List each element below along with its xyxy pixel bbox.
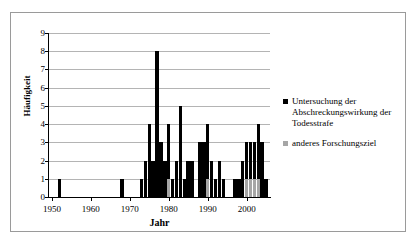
y-axis-tick-mark bbox=[45, 197, 48, 198]
bar-segment-untersuchung[interactable] bbox=[58, 179, 61, 197]
x-axis-tick-label: 1950 bbox=[35, 204, 69, 214]
x-axis-tick-label: 1960 bbox=[74, 204, 108, 214]
x-axis-line bbox=[48, 197, 271, 198]
y-axis-line bbox=[48, 33, 49, 198]
x-axis-tick-mark bbox=[169, 198, 170, 201]
x-axis-tick-label: 1980 bbox=[152, 204, 186, 214]
legend-item-label: Untersuchung der Abschreckungswirkung de… bbox=[292, 96, 405, 129]
x-axis-tick-mark bbox=[91, 198, 92, 201]
y-axis-tick-mark bbox=[45, 51, 48, 52]
chart-figure: 0123456789 Häufigkeit Jahr Untersuchung … bbox=[10, 12, 406, 232]
gridline bbox=[48, 88, 270, 89]
gridline bbox=[48, 69, 270, 70]
x-axis-tick-label: 2000 bbox=[230, 204, 264, 214]
bar-stack[interactable] bbox=[264, 179, 267, 197]
x-axis-tick-mark bbox=[208, 198, 209, 201]
y-axis-tick-mark bbox=[45, 33, 48, 34]
y-axis-tick-mark bbox=[45, 106, 48, 107]
y-axis-tick-mark bbox=[45, 161, 48, 162]
plot-area bbox=[48, 33, 270, 197]
y-axis-tick-mark bbox=[45, 142, 48, 143]
legend-item-label: anderes Forschungsziel bbox=[292, 138, 376, 149]
y-axis-tick-mark bbox=[45, 124, 48, 125]
x-axis-tick-label: 1970 bbox=[113, 204, 147, 214]
bar-stack[interactable] bbox=[222, 179, 225, 197]
x-axis-tick-mark bbox=[130, 198, 131, 201]
series-main-swatch-icon bbox=[283, 99, 288, 104]
gridline bbox=[48, 33, 270, 34]
y-axis-tick-label: 3 bbox=[25, 138, 45, 147]
y-axis-tick-label: 2 bbox=[25, 157, 45, 166]
x-axis-tick-label: 1990 bbox=[191, 204, 225, 214]
x-axis-tick-mark bbox=[52, 198, 53, 201]
y-axis-tick-mark bbox=[45, 88, 48, 89]
bar-stack[interactable] bbox=[58, 179, 61, 197]
bar-segment-untersuchung[interactable] bbox=[222, 179, 225, 197]
x-axis-tick-mark bbox=[247, 198, 248, 201]
bar-segment-untersuchung[interactable] bbox=[264, 179, 267, 197]
bar-stack[interactable] bbox=[190, 161, 193, 197]
legend-item-anderes[interactable]: anderes Forschungsziel bbox=[283, 138, 405, 149]
gridline bbox=[48, 106, 270, 107]
y-axis-tick-mark bbox=[45, 69, 48, 70]
bar-segment-untersuchung[interactable] bbox=[190, 161, 193, 197]
y-axis-title: Häufigkeit bbox=[22, 64, 32, 128]
bar-segment-untersuchung[interactable] bbox=[167, 124, 170, 179]
gridline bbox=[48, 124, 270, 125]
y-axis-tick-label: 8 bbox=[25, 47, 45, 56]
chart-legend: Untersuchung der Abschreckungswirkung de… bbox=[283, 96, 405, 158]
gridline bbox=[48, 51, 270, 52]
y-axis-tick-label: 9 bbox=[25, 29, 45, 38]
bar-stack[interactable] bbox=[120, 179, 123, 197]
y-axis-tick-mark bbox=[45, 179, 48, 180]
y-axis-tick-label: 0 bbox=[25, 193, 45, 202]
bar-segment-untersuchung[interactable] bbox=[120, 179, 123, 197]
series-other-swatch-icon bbox=[283, 141, 288, 146]
y-axis-tick-label: 1 bbox=[25, 175, 45, 184]
legend-item-untersuchung[interactable]: Untersuchung der Abschreckungswirkung de… bbox=[283, 96, 405, 129]
x-axis-title: Jahr bbox=[48, 217, 271, 228]
